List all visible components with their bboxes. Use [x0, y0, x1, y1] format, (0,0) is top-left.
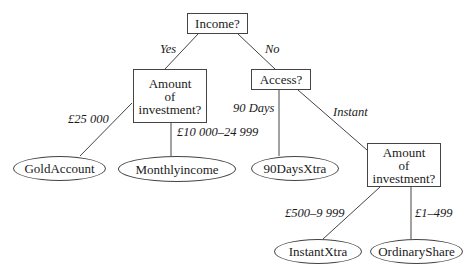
amount-decision-node-right: Amount of investment? — [367, 143, 441, 187]
edge-access-instant — [298, 90, 367, 150]
access-decision-node: Access? — [251, 69, 311, 90]
amount-decision-node-left: Amount of investment? — [133, 69, 207, 123]
edge-label-1-499: £1–499 — [415, 207, 453, 220]
access-node-label: Access? — [260, 73, 303, 86]
ordinaryshare-leaf-node: OrdinaryShare — [370, 239, 463, 264]
edge-label-instant: Instant — [333, 106, 368, 119]
edge-label-25000: £25 000 — [68, 113, 109, 126]
goldaccount-leaf-node: GoldAccount — [13, 156, 106, 181]
edge-label-90-days: 90 Days — [233, 102, 274, 115]
amount-right-line-3: investment? — [373, 172, 436, 185]
edge-label-10000-24999: £10 000–24 999 — [177, 126, 258, 139]
amount-left-line-3: investment? — [139, 103, 202, 116]
decision-tree-diagram: Income? Amount of investment? Access? Am… — [0, 0, 475, 278]
90daysxtra-leaf-node: 90DaysXtra — [251, 156, 339, 181]
amount-left-line-2: of — [165, 90, 176, 103]
instantxtra-label: InstantXtra — [289, 245, 347, 258]
instantxtra-leaf-node: InstantXtra — [274, 239, 362, 264]
edge-label-yes: Yes — [160, 43, 176, 56]
income-node-label: Income? — [195, 17, 240, 30]
income-decision-node: Income? — [187, 13, 248, 34]
90daysxtra-label: 90DaysXtra — [264, 162, 327, 175]
edge-label-no: No — [265, 43, 280, 56]
ordinaryshare-label: OrdinaryShare — [378, 245, 455, 258]
amount-right-line-1: Amount — [383, 146, 426, 159]
monthlyincome-leaf-node: Monthlyincome — [118, 156, 236, 182]
amount-left-line-1: Amount — [149, 77, 192, 90]
tree-edges — [0, 0, 475, 278]
goldaccount-label: GoldAccount — [24, 162, 94, 175]
edge-label-500-9999: £500–9 999 — [285, 207, 344, 220]
edge-amount-goldaccount — [80, 103, 132, 156]
monthlyincome-label: Monthlyincome — [135, 163, 218, 176]
amount-right-line-2: of — [399, 159, 410, 172]
